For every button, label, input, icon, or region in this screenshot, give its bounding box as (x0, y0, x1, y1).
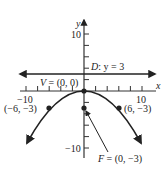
point-6-neg3 (116, 105, 121, 110)
x-axis: x −10 10 (17, 80, 161, 105)
focus-leader-line (86, 111, 108, 152)
vertex-label: V = (0, 0) (40, 77, 78, 89)
y-tick-label-neg10: −10 (65, 143, 81, 154)
directrix-label: D: y = 3 (90, 61, 124, 72)
y-axis: y 10 −10 (65, 18, 89, 158)
directrix-line: D: y = 3 (20, 61, 155, 74)
parabola-chart: x −10 10 y 10 −10 D: y = 3 V = (0, 0) (0, 0, 166, 172)
point-neg6-neg3 (46, 105, 51, 110)
point-left-label: (−6, −3) (4, 103, 37, 115)
y-tick-label-10: 10 (71, 29, 81, 40)
x-axis-label: x (155, 80, 161, 91)
point-right-label: (6, −3) (124, 103, 151, 115)
y-axis-label: y (75, 18, 81, 29)
focus-label: F = (0, −3) (97, 153, 142, 165)
vertex-point (81, 88, 86, 93)
focus-point (81, 105, 86, 110)
